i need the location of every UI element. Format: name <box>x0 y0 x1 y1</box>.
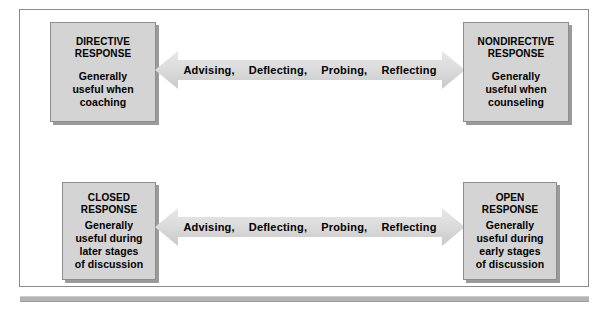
arrow-label-reflecting: Reflecting <box>374 64 443 76</box>
bottom-rule-bar <box>20 296 589 302</box>
box-title-line1: DIRECTIVE <box>76 36 130 47</box>
box-desc-line3: later stages <box>80 245 139 257</box>
arrow-label-advising: Advising, <box>176 221 241 233</box>
box-desc-line2: useful during <box>75 232 142 244</box>
arrow-directive-continuum: Advising, Deflecting, Probing, Reflectin… <box>155 48 465 92</box>
box-desc-line3: counseling <box>488 96 544 108</box>
box-desc-line2: useful during <box>476 232 543 244</box>
box-description: Generally useful during early stages of … <box>476 219 544 271</box>
box-description: Generally useful during later stages of … <box>75 219 143 271</box>
box-directive-response: DIRECTIVE RESPONSE Generally useful when… <box>50 22 156 122</box>
box-description: Generally useful when counseling <box>485 70 546 109</box>
box-desc-line4: of discussion <box>75 258 143 270</box>
box-title-line2: RESPONSE <box>81 204 137 215</box>
arrow-label-group: Advising, Deflecting, Probing, Reflectin… <box>155 205 465 249</box>
box-title: DIRECTIVE RESPONSE <box>75 36 131 61</box>
box-closed-response: CLOSED RESPONSE Generally useful during … <box>62 182 156 280</box>
arrow-label-deflecting: Deflecting, <box>242 64 314 76</box>
box-title-line1: NONDIRECTIVE <box>478 36 555 47</box>
box-open-response: OPEN RESPONSE Generally useful during ea… <box>463 182 557 280</box>
arrow-label-probing: Probing, <box>314 64 374 76</box>
box-desc-line1: Generally <box>486 219 534 231</box>
box-desc-line1: Generally <box>85 219 133 231</box>
box-desc-line4: of discussion <box>476 258 544 270</box>
box-title-line2: RESPONSE <box>488 48 544 59</box>
box-desc-line1: Generally <box>492 70 540 82</box>
box-title: NONDIRECTIVE RESPONSE <box>478 36 555 61</box>
arrow-label-group: Advising, Deflecting, Probing, Reflectin… <box>155 48 465 92</box>
arrow-closed-open-continuum: Advising, Deflecting, Probing, Reflectin… <box>155 205 465 249</box>
box-title-line2: RESPONSE <box>482 204 538 215</box>
box-desc-line2: useful when <box>72 83 133 95</box>
arrow-label-deflecting: Deflecting, <box>242 221 314 233</box>
box-title: CLOSED RESPONSE <box>81 192 137 217</box>
box-desc-line1: Generally <box>79 70 127 82</box>
box-desc-line3: early stages <box>479 245 540 257</box>
arrow-label-advising: Advising, <box>176 64 241 76</box>
arrow-label-reflecting: Reflecting <box>374 221 443 233</box>
arrow-label-probing: Probing, <box>314 221 374 233</box>
response-continuum-diagram: DIRECTIVE RESPONSE Generally useful when… <box>0 0 612 311</box>
box-nondirective-response: NONDIRECTIVE RESPONSE Generally useful w… <box>463 22 569 122</box>
box-title-line2: RESPONSE <box>75 48 131 59</box>
box-desc-line2: useful when <box>485 83 546 95</box>
box-title-line1: OPEN <box>496 192 525 203</box>
box-desc-line3: coaching <box>80 96 127 108</box>
box-description: Generally useful when coaching <box>72 70 133 109</box>
box-title: OPEN RESPONSE <box>482 192 538 217</box>
box-title-line1: CLOSED <box>88 192 130 203</box>
